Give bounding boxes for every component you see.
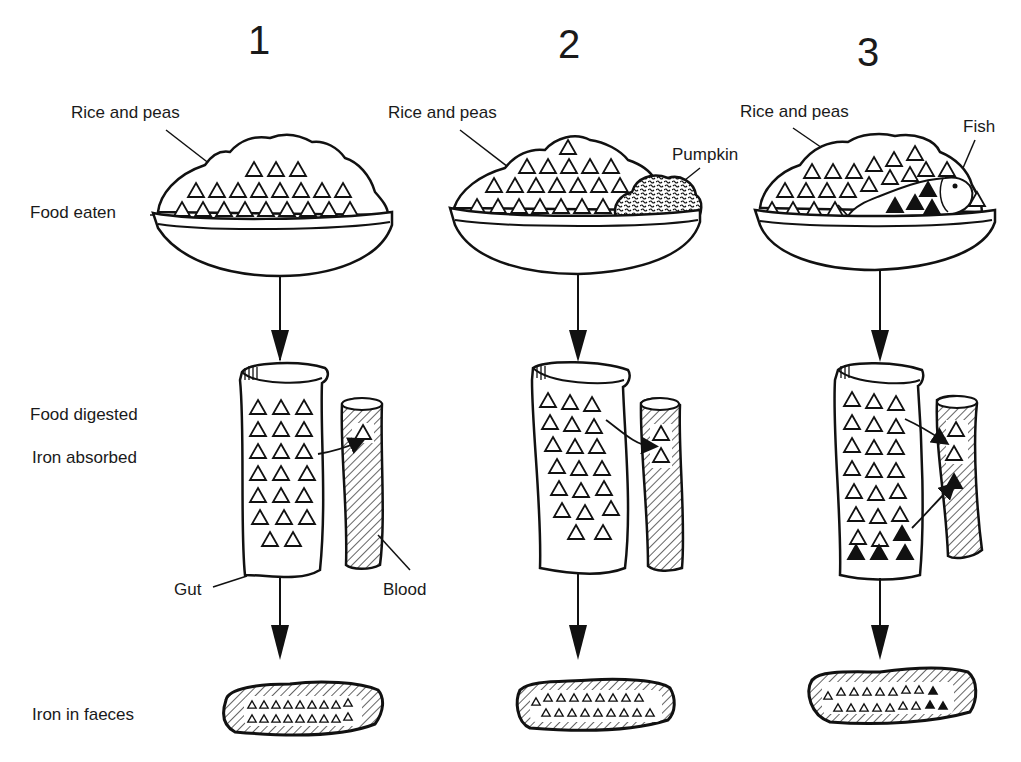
iron-triangles-faeces-3 [822,682,954,714]
panel-1 [150,130,410,735]
iron-triangles-faeces-2 [530,690,662,722]
bowl-3 [755,210,995,270]
bowl-2 [450,208,700,274]
panel-2 [450,130,701,730]
panel-3 [755,128,995,724]
iron-triangles-faeces-1 [244,696,362,726]
bowl-1 [153,212,392,276]
diagram-canvas [0,0,1021,762]
